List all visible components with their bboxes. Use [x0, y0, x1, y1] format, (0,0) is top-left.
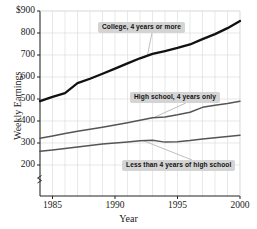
x-tick-label: 1985: [33, 201, 73, 211]
y-tick-label: 800: [21, 28, 35, 38]
y-axis-title: Weekly Earnings: [12, 72, 23, 140]
axis-ticks: [37, 11, 240, 199]
chart-figure: $900800700600500400300200 19851990199520…: [0, 0, 257, 229]
x-axis-title: Year: [0, 213, 257, 224]
y-tick-label: 700: [21, 50, 35, 60]
callout-label-2: Less than 4 years of high school: [122, 160, 235, 171]
y-tick-label: 200: [21, 160, 35, 170]
callout-label-0: College, 4 years or more: [98, 22, 185, 33]
y-tick-label: $900: [16, 6, 35, 16]
x-tick-label: 1990: [95, 201, 135, 211]
line-chart-plot: [0, 0, 257, 229]
callout-label-1: High school, 4 years only: [130, 92, 220, 103]
x-tick-label: 2000: [220, 201, 257, 211]
x-tick-label: 1995: [158, 201, 198, 211]
